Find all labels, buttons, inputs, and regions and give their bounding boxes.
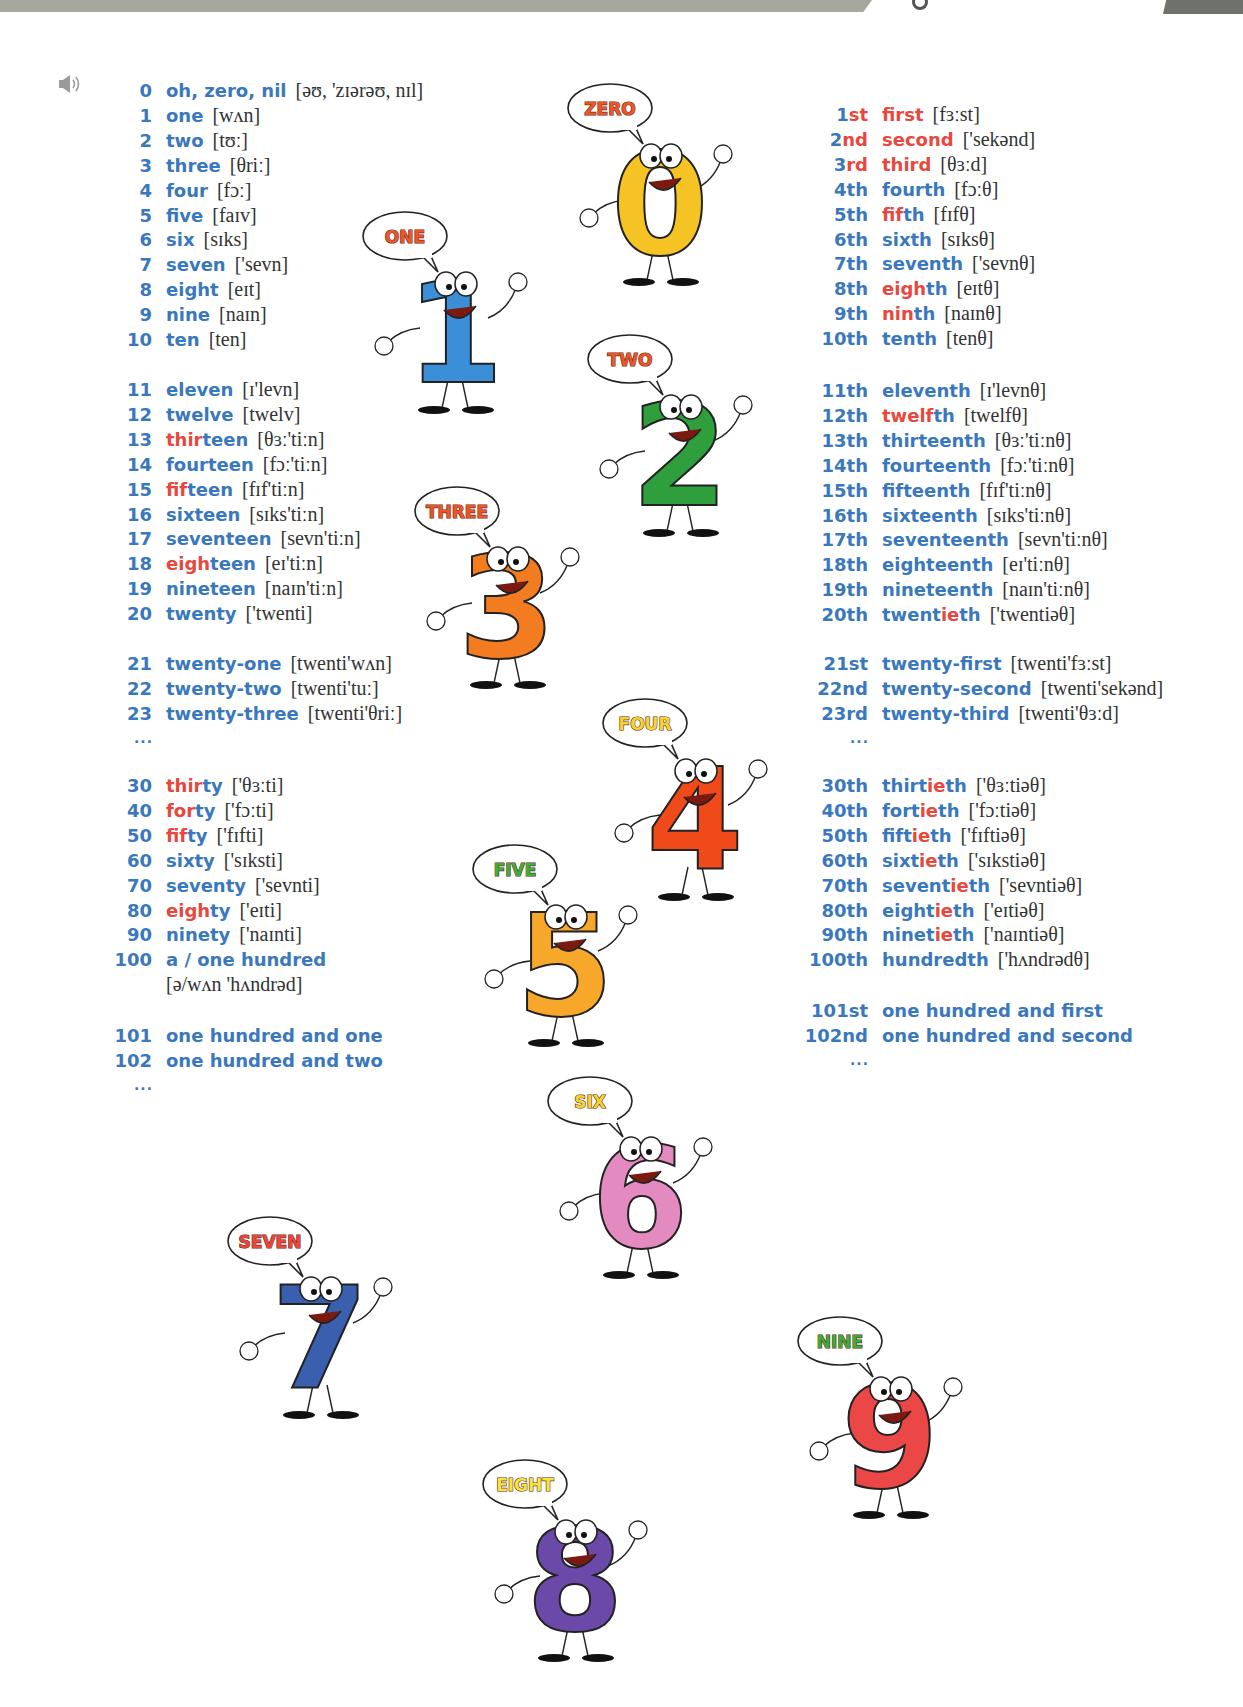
phonetic-transcription: ['θɜːtiəθ] [976,774,1046,796]
ordinal-digits: 16 [822,505,847,526]
phonetic-transcription: [fɪfθ] [934,203,976,225]
number-label: 17 [80,526,152,551]
word-text: one [166,105,203,126]
word-text: twenty-second [882,678,1032,699]
ordinal-digits: 40 [822,800,847,821]
ordinal-number-label: 3rd [770,152,868,177]
ordinal-suffix: th [847,554,868,575]
word-text: twenty-third [882,703,1009,724]
ordinal-suffix: th [847,229,868,250]
word-text: six [166,229,195,250]
word-label: twenty['twenti] [166,601,313,626]
word-label: twenty-second[twenti'sekənd] [882,676,1163,701]
ordinal-digits: 4 [834,179,847,200]
word-highlight: second [882,129,954,150]
word-label: two[tʊː] [166,128,248,153]
ordinal-digits: 17 [822,529,847,550]
word-label: eleven[ɪ'levn] [166,377,299,402]
phonetic-transcription: [eɪt] [228,278,261,300]
ordinal-digits: 2 [830,129,843,150]
number-label: 3 [80,153,152,178]
word-text: eight [882,900,935,921]
word-text: a / one hundred [166,949,326,970]
number-character-one: 1 ONE [360,210,560,424]
ordinal-number-label: 21st [770,651,868,676]
number-label: 7 [80,252,152,277]
word-text: one hundred and one [166,1025,383,1046]
word-label: fortieth['fɔːtiəθ] [882,798,1036,823]
word-highlight: ie [941,604,959,625]
number-label: 1 [80,103,152,128]
header-banner-left [0,0,872,12]
ellipsis: ... [134,1071,153,1096]
ellipsis: ... [134,724,153,749]
number-label: 21 [80,651,152,676]
word-text: th [969,875,990,896]
phonetic-transcription: [ɪ'levn] [242,378,299,400]
phonetic-transcription: [ə/wʌn 'hʌndrəd] [166,973,302,995]
ordinal-suffix: th [847,328,868,349]
ordinal-suffix: th [847,900,868,921]
ordinal-digits: 1 [836,104,849,125]
word-label: fourth[fɔːθ] [882,177,998,202]
word-label: oh, zero, nil[əʊ, 'zɪərəʊ, nɪl] [166,78,423,103]
phonetic-transcription: [fɔː'tiːnθ] [1000,454,1074,476]
number-label: 12 [80,402,152,427]
word-label: three[θriː] [166,153,270,178]
ordinal-suffix: th [847,579,868,600]
ordinal-digits: 23 [821,703,846,724]
word-label: twenty-three[twenti'θriː] [166,701,402,726]
number-label: 19 [80,576,152,601]
word-text: eleventh [882,380,971,401]
word-label: twelve[twelv] [166,402,300,427]
word-label: nineteenth[naɪn'tiːnθ] [882,577,1090,602]
phonetic-transcription: [tʊː] [213,129,248,151]
word-label: fiftieth['fɪftiəθ] [882,823,1026,848]
word-text: nineteen [166,578,256,599]
number-label: 80 [80,898,152,923]
phonetic-transcription: [twenti'sekənd] [1041,677,1163,699]
number-label: 100 [80,947,152,972]
word-highlight: thir [166,429,202,450]
number-character-nine: 9 NINE [795,1315,995,1529]
word-highlight: fif [166,825,187,846]
word-text: thirteenth [882,430,986,451]
phonetic-transcription: ['sevnθ] [972,252,1035,274]
ordinal-number-label: 6th [770,227,868,252]
ordinal-digits: 3 [834,154,847,175]
number-character-five: 5 FIVE [470,843,670,1057]
header-tab-right [1163,0,1243,14]
ordinal-suffix: th [847,604,868,625]
number-label: 70 [80,873,152,898]
word-highlight: fif [166,479,187,500]
ordinal-suffix: th [847,380,868,401]
phonetic-transcription: [sɪksθ] [941,228,995,250]
number-label: 10 [80,327,152,352]
ordinal-digits: 20 [822,604,847,625]
speech-bubble-label: EIGHT [496,1475,554,1495]
phonetic-transcription: [eɪ'tiːn] [265,552,323,574]
word-label: eighteen[eɪ'tiːn] [166,551,323,576]
phonetic-transcription: [naɪn] [219,303,267,325]
word-label: thirteenth[θɜː'tiːnθ] [882,428,1071,453]
word-label: twenty-two[twenti'tuː] [166,676,379,701]
word-text: twenty-one [166,653,281,674]
word-label: third[θɜːd] [882,152,987,177]
ordinal-digits: 7 [834,253,847,274]
word-label: twelfth[twelfθ] [882,403,1028,428]
ordinal-number-label: 102nd [770,1023,868,1048]
phonetic-transcription: [sɪks'tiːn] [249,503,324,525]
ordinal-number-label: 2nd [770,127,868,152]
word-highlight: fif [882,204,903,225]
ordinal-suffix: th [847,253,868,274]
word-text: twenty-two [166,678,282,699]
ordinal-suffix: rd [846,154,868,175]
ordinal-suffix: th [847,825,868,846]
ordinal-digits: 12 [822,405,847,426]
word-text: three [166,155,221,176]
ordinal-digits: 90 [822,924,847,945]
phonetic-transcription: [θriː] [230,154,271,176]
number-label: 50 [80,823,152,848]
phonetic-transcription: [əʊ, 'zɪərəʊ, nɪl] [295,79,423,101]
word-text: th [953,924,974,945]
